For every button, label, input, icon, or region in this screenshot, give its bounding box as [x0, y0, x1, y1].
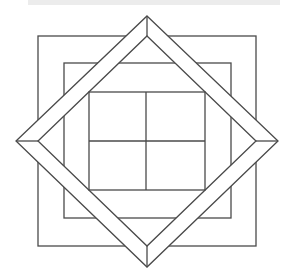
center-grid	[89, 92, 205, 190]
geometric-figure	[0, 0, 293, 280]
